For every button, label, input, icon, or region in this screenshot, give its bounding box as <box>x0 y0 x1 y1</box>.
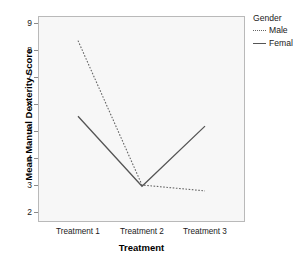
xtick-label-treatment-3: Treatment 3 <box>170 228 240 236</box>
y-axis-title: Mean Manual Dexterity Score <box>24 20 34 210</box>
line-chart: 9 8 7 6 5 4 3 2 Treatment 1 Treatment 2 … <box>0 0 294 264</box>
solid-line-icon <box>253 40 266 47</box>
ytick-mark <box>34 185 38 186</box>
legend-title: Gender <box>253 12 294 24</box>
ytick-mark <box>34 77 38 78</box>
legend-item-female[interactable]: Femal <box>253 37 294 49</box>
legend: Gender Male Femal <box>253 12 294 49</box>
ytick-mark <box>34 104 38 105</box>
series-line-male <box>78 41 205 191</box>
ytick-mark <box>34 23 38 24</box>
series-line-female <box>78 116 205 186</box>
ytick-mark <box>34 131 38 132</box>
plot-series-layer <box>0 0 294 264</box>
legend-item-male[interactable]: Male <box>253 24 294 36</box>
ytick-mark <box>34 212 38 213</box>
legend-item-label: Male <box>269 24 288 36</box>
xtick-label-treatment-1: Treatment 1 <box>43 228 113 236</box>
legend-item-label: Femal <box>269 37 293 49</box>
ytick-mark <box>34 50 38 51</box>
xtick-label-treatment-2: Treatment 2 <box>107 228 177 236</box>
x-axis-title: Treatment <box>38 243 245 253</box>
ytick-mark <box>34 158 38 159</box>
dotted-line-icon <box>253 27 266 34</box>
